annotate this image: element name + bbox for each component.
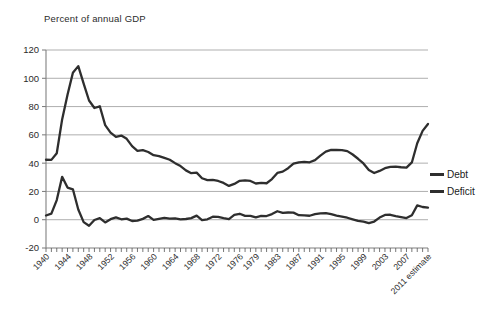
x-tick-label: 1991 [305,251,326,272]
y-tick-label: 100 [23,73,39,84]
legend-item-debt[interactable]: Debt [430,166,494,183]
legend-label-debt: Debt [447,169,468,180]
x-tick-label: 1987 [284,251,305,272]
x-tick-label: 1964 [160,251,181,272]
x-tick-label: 1944 [52,251,73,272]
x-tick-label: 1952 [95,251,116,272]
y-tick-label: 40 [28,158,39,169]
y-tick-label: -20 [25,242,39,253]
x-tick-label: 1976 [225,251,246,272]
chart-plot-area: 120100806040200-20 194019441948195219561… [0,0,497,313]
x-tick-label: 1972 [203,251,224,272]
x-tick-label: 1999 [348,251,369,272]
legend-item-deficit[interactable]: Deficit [430,183,494,200]
y-tick-label: 80 [28,101,39,112]
x-tick-labels: 1940194419481952195619601964196819721976… [31,251,434,296]
series-line-debt [46,66,428,186]
x-tick-label: 1983 [262,251,283,272]
x-tick-label: 1979 [241,251,262,272]
x-tick-label: 2003 [370,251,391,272]
y-tick-labels: 120100806040200-20 [23,44,39,253]
y-tick-label: 20 [28,186,39,197]
x-tick-label: 1948 [74,251,95,272]
x-tick-label: 1960 [138,251,159,272]
series-line-deficit [46,177,428,226]
data-series-group [46,66,428,226]
x-tick-label: 1968 [181,251,202,272]
x-tick-label: 1956 [117,251,138,272]
y-tick-label: 120 [23,44,39,55]
x-tick-label: 1940 [31,251,52,272]
y-tick-label: 0 [34,214,39,225]
x-tick-label: 1995 [327,251,348,272]
chart-legend: Debt Deficit [430,166,494,200]
y-tick-label: 60 [28,129,39,140]
legend-swatch-debt [430,173,444,177]
chart-figure: Percent of annual GDP 120100806040200-20… [0,0,497,313]
legend-swatch-deficit [430,190,444,194]
legend-label-deficit: Deficit [447,186,475,197]
